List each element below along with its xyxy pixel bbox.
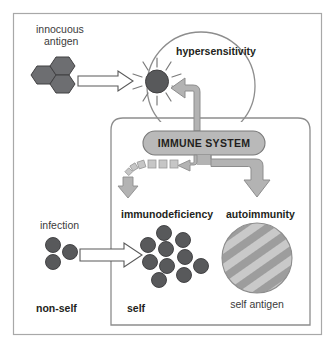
- immunodeficiency-dot-3: [159, 242, 174, 257]
- self-label: self: [127, 302, 146, 314]
- immunodeficiency-dot-10: [194, 259, 209, 274]
- hypersensitivity-label: hypersensitivity: [176, 45, 256, 57]
- figure-background: [0, 0, 335, 348]
- immunodeficiency-dot-6: [143, 255, 158, 270]
- immunodeficiency-dot-9: [152, 273, 167, 288]
- infection-dot-3: [46, 255, 61, 270]
- immunodeficiency-dot-2: [141, 238, 156, 253]
- dashed-square-3: [148, 160, 156, 168]
- dashed-square-2: [159, 160, 167, 168]
- immunodeficiency-dot-1: [157, 226, 172, 241]
- immune-system-diagram: innocuous antigen hypersensitivity: [0, 0, 335, 348]
- infection-label: infection: [40, 219, 79, 231]
- innocuous-antigen-label-line2: antigen: [44, 35, 79, 47]
- self-antigen-label: self antigen: [230, 298, 284, 310]
- immune-system-label: IMMUNE SYSTEM: [158, 137, 251, 149]
- innocuous-antigen-label-line1: innocuous: [36, 23, 84, 35]
- immunodeficiency-label: immunodeficiency: [121, 208, 213, 220]
- non-self-label: non-self: [36, 302, 77, 314]
- diagram-canvas: innocuous antigen hypersensitivity: [0, 0, 335, 348]
- autoimmunity-label: autoimmunity: [226, 208, 295, 220]
- activated-antigen-dot: [146, 70, 169, 93]
- infection-dot-1: [46, 238, 61, 253]
- antigen-hexagon-3: [50, 75, 75, 93]
- immunodeficiency-dot-4: [176, 233, 191, 248]
- self-antigen-disc: [222, 223, 292, 293]
- branch-joint: [197, 155, 211, 165]
- dashed-square-1: [170, 160, 178, 168]
- dashed-square-4: [137, 160, 146, 169]
- immunodeficiency-dot-7: [160, 259, 175, 274]
- immunodeficiency-dot-5: [178, 250, 193, 265]
- immunodeficiency-dot-8: [177, 268, 192, 283]
- antigen-hexagon-2: [50, 57, 75, 75]
- infection-dot-2: [63, 245, 78, 260]
